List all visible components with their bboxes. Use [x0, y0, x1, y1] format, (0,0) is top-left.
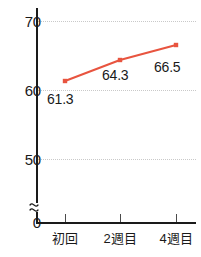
data-label-3: 66.5 [154, 60, 180, 74]
data-point-2 [118, 58, 122, 62]
data-label-2: 64.3 [102, 68, 128, 82]
data-label-1: 61.3 [47, 92, 73, 106]
plot-area: 70 60 50 0 初回 2週目 4週目 61.3 64.3 66.5 [0, 0, 201, 257]
data-point-3 [174, 43, 178, 47]
line-chart: 70 60 50 0 初回 2週目 4週目 61.3 64.3 66.5 [0, 0, 201, 257]
data-point-1 [63, 79, 67, 83]
data-series-line [0, 0, 201, 257]
